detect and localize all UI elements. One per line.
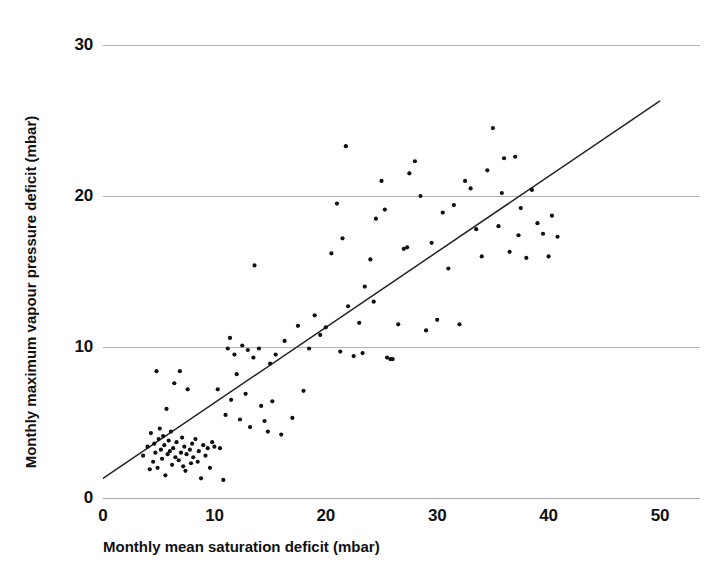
data-point	[266, 429, 270, 433]
data-point	[167, 439, 171, 443]
data-point	[181, 464, 185, 468]
data-point	[155, 466, 159, 470]
data-point	[184, 452, 188, 456]
data-point	[232, 352, 236, 356]
data-point	[259, 404, 263, 408]
data-point	[535, 221, 539, 225]
data-point	[208, 466, 212, 470]
data-point	[243, 392, 247, 396]
x-tick-label-30: 30	[428, 506, 447, 526]
data-point	[182, 445, 186, 449]
data-point	[485, 168, 489, 172]
data-point	[154, 369, 158, 373]
data-point	[344, 144, 348, 148]
data-point	[216, 387, 220, 391]
scatter-plot-figure: 0102030 01020304050 Monthly maximum vapo…	[0, 0, 716, 584]
data-point	[282, 339, 286, 343]
data-point	[257, 346, 261, 350]
data-point	[469, 186, 473, 190]
data-point	[199, 476, 203, 480]
data-point	[252, 263, 256, 267]
trend-line	[103, 101, 660, 479]
data-point	[235, 372, 239, 376]
data-point	[519, 206, 523, 210]
data-point	[290, 416, 294, 420]
data-point	[169, 429, 173, 433]
data-point	[379, 179, 383, 183]
data-point	[530, 188, 534, 192]
data-point	[496, 224, 500, 228]
data-point	[396, 322, 400, 326]
y-tick-label-10: 10	[74, 337, 93, 357]
data-point	[274, 352, 278, 356]
data-point	[157, 437, 161, 441]
data-point	[340, 236, 344, 240]
y-tick-label-30: 30	[74, 35, 93, 55]
data-point	[435, 318, 439, 322]
data-point	[268, 362, 272, 366]
data-point	[177, 458, 181, 462]
data-point	[158, 426, 162, 430]
data-point	[238, 417, 242, 421]
data-point	[197, 449, 201, 453]
data-point	[407, 171, 411, 175]
data-point	[301, 389, 305, 393]
data-point	[178, 369, 182, 373]
data-point	[480, 254, 484, 258]
data-point	[324, 325, 328, 329]
data-point	[149, 431, 153, 435]
data-point	[163, 473, 167, 477]
data-point	[186, 387, 190, 391]
data-point	[170, 463, 174, 467]
x-axis-title: Monthly mean saturation deficit (mbar)	[103, 538, 380, 555]
data-point	[221, 478, 225, 482]
data-point	[201, 443, 205, 447]
data-point	[502, 156, 506, 160]
data-point	[246, 348, 250, 352]
data-point	[229, 398, 233, 402]
data-point	[161, 434, 165, 438]
x-tick-label-20: 20	[317, 506, 336, 526]
data-point	[474, 227, 478, 231]
data-point	[457, 322, 461, 326]
data-point	[296, 324, 300, 328]
data-point	[446, 266, 450, 270]
data-point	[318, 333, 322, 337]
data-point	[335, 201, 339, 205]
data-point	[500, 191, 504, 195]
data-point	[193, 437, 197, 441]
data-point	[248, 425, 252, 429]
data-point	[168, 449, 172, 453]
data-point	[145, 445, 149, 449]
data-point	[153, 451, 157, 455]
data-point	[424, 328, 428, 332]
data-point	[516, 233, 520, 237]
data-point	[413, 159, 417, 163]
data-point	[218, 446, 222, 450]
plot-canvas	[0, 0, 716, 584]
data-point	[405, 245, 409, 249]
data-point	[171, 446, 175, 450]
data-point	[352, 354, 356, 358]
data-point	[513, 155, 517, 159]
data-point	[173, 455, 177, 459]
data-point	[550, 214, 554, 218]
data-point	[212, 445, 216, 449]
data-point	[251, 355, 255, 359]
data-point	[346, 304, 350, 308]
data-point	[196, 460, 200, 464]
data-point	[228, 336, 232, 340]
data-point	[174, 440, 178, 444]
data-point	[148, 467, 152, 471]
x-tick-label-50: 50	[651, 506, 670, 526]
data-point	[189, 461, 193, 465]
data-point	[357, 321, 361, 325]
data-point	[391, 357, 395, 361]
gridline-group	[103, 46, 700, 499]
data-point	[180, 436, 184, 440]
data-point	[338, 349, 342, 353]
data-point	[430, 241, 434, 245]
data-point	[374, 217, 378, 221]
data-point	[279, 432, 283, 436]
data-point	[159, 448, 163, 452]
